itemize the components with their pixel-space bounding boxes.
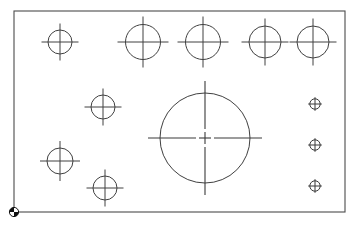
hole-marker-d1[interactable] [40,141,80,181]
origin-marker[interactable] [9,207,18,216]
point-marker-a1[interactable] [308,138,322,152]
hole-marker-c3[interactable] [178,17,229,68]
origin-quadrant-top-left [9,207,14,212]
drawing-svg-root [0,0,359,228]
hole-marker-d4[interactable] [87,170,124,207]
point-marker-a3[interactable] [308,179,322,193]
hole-marker-c2[interactable] [118,17,169,68]
hole-marker-c1[interactable] [242,19,289,66]
hole-marker-d3[interactable] [85,89,122,126]
hole-marker-c4[interactable] [290,19,337,66]
cad-drawing-canvas[interactable] [0,0,359,228]
origin-quadrant-bottom-right [14,212,19,217]
point-marker-a2[interactable] [308,97,322,111]
hole-marker-d2[interactable] [42,24,79,61]
hole-marker-b1[interactable] [148,81,262,195]
plate-outline [14,11,345,212]
